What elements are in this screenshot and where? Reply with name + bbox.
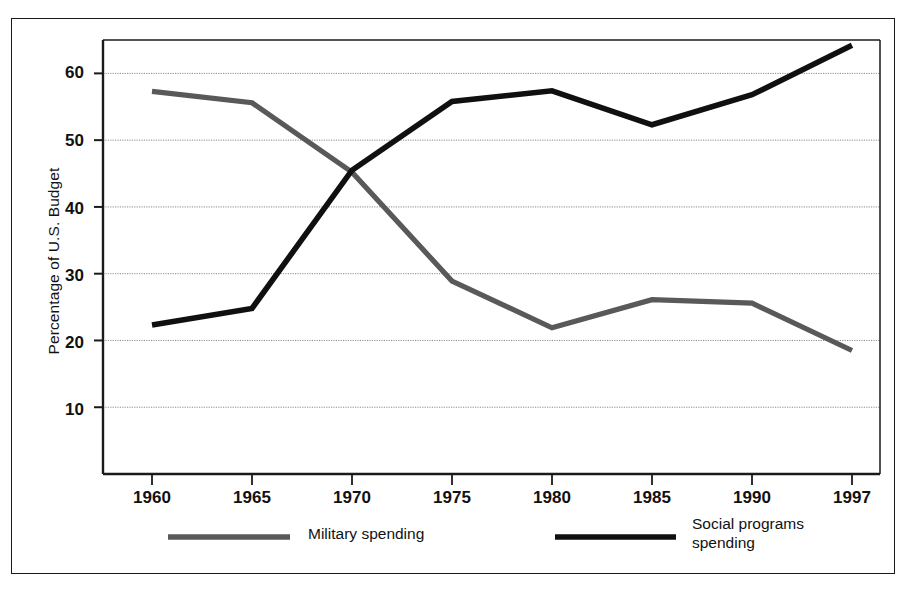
- data-series-group: [152, 45, 852, 350]
- chart-figure: Percentage of U.S. Budget 60 50 40 30 20…: [0, 0, 910, 592]
- plot-area: [0, 0, 910, 592]
- axes-group: [103, 40, 880, 474]
- gridlines-group: [103, 73, 880, 407]
- series-line-military-spending: [152, 91, 852, 350]
- series-line-social-programs-spending: [152, 45, 852, 325]
- axis-ticks-group: [94, 73, 852, 485]
